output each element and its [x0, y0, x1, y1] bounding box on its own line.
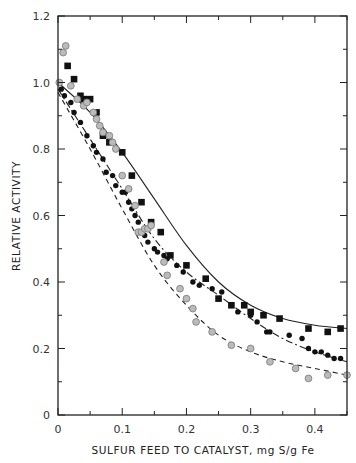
y-tick-label: 0.4: [33, 276, 51, 289]
open-circle-marker: [209, 328, 216, 335]
filled-circle-marker: [103, 170, 108, 175]
x-tick-labels: 00.10.20.30.4: [55, 423, 324, 436]
filled-circle-marker: [68, 100, 73, 105]
x-tick-label: 0.1: [113, 423, 131, 436]
filled-circle-marker: [78, 120, 83, 125]
square-marker: [183, 262, 190, 269]
open-circle-marker: [106, 132, 113, 139]
square-marker: [138, 199, 145, 206]
square-marker: [305, 325, 312, 332]
y-tick-label: 0: [43, 409, 50, 422]
filled-circle-marker: [145, 239, 150, 244]
open-circle-marker: [148, 222, 155, 229]
open-circle-marker: [247, 345, 254, 352]
filled-circle-marker: [209, 286, 214, 291]
open-circle-marker: [164, 272, 171, 279]
y-tick-labels: 00.20.40.60.81.01.2: [33, 10, 51, 422]
filled-circle-marker: [219, 289, 224, 294]
open-circle-marker: [228, 342, 235, 349]
open-circle-marker: [90, 109, 97, 116]
x-axis-label: SULFUR FEED TO CATALYST, mg S/g Fe: [91, 444, 314, 456]
filled-circle-marker: [126, 200, 131, 205]
filled-circle-marker: [267, 329, 272, 334]
filled-circle-marker: [312, 349, 317, 354]
filled-circle-marker: [248, 313, 253, 318]
open-circle-marker: [177, 285, 184, 292]
open-circle-marker: [100, 129, 107, 136]
square-marker: [276, 315, 283, 322]
open-circle-marker: [67, 82, 74, 89]
filled-circle-marker: [235, 309, 240, 314]
x-tick-label: 0.4: [306, 423, 324, 436]
filled-circle-marker: [155, 249, 160, 254]
y-tick-label: 1.0: [33, 77, 51, 90]
open-circle-marker: [193, 319, 200, 326]
open-circle-marker: [119, 172, 126, 179]
square-marker: [157, 229, 164, 236]
square-marker: [202, 275, 209, 282]
data-points: [56, 43, 351, 382]
filled-circle-marker: [229, 303, 234, 308]
filled-squares-fit-curve: [58, 83, 347, 329]
open-circle-marker: [125, 186, 132, 193]
open-circle-marker: [161, 259, 168, 266]
filled-circle-marker: [91, 143, 96, 148]
open-circle-marker: [267, 358, 274, 365]
open-circle-marker: [183, 295, 190, 302]
square-marker: [71, 76, 78, 83]
filled-circle-marker: [325, 352, 330, 357]
plot-frame: [58, 16, 347, 415]
filled-circle-marker: [197, 283, 202, 288]
open-circle-marker: [62, 43, 69, 50]
x-tick-label: 0: [55, 423, 62, 436]
filled-circle-marker: [319, 349, 324, 354]
square-marker: [324, 329, 331, 336]
x-tick-label: 0.2: [178, 423, 196, 436]
y-tick-label: 0.6: [33, 210, 51, 223]
square-marker: [119, 149, 126, 156]
y-axis-label: RELATIVE ACTIVITY: [10, 161, 22, 271]
square-marker: [64, 63, 71, 70]
filled-circle-marker: [59, 86, 64, 91]
filled-circle-marker: [94, 150, 99, 155]
open-circle-marker: [74, 96, 81, 103]
open-circle-marker: [112, 146, 119, 153]
square-marker: [129, 172, 136, 179]
relative-activity-chart: 00.10.20.30.4 00.20.40.60.81.01.2 SULFUR…: [0, 0, 356, 463]
open-circle-marker: [132, 202, 139, 209]
open-circle-marker: [60, 49, 67, 56]
filled-circle-marker: [331, 356, 336, 361]
square-marker: [241, 302, 248, 309]
open-circle-marker: [305, 375, 312, 382]
filled-circle-marker: [287, 333, 292, 338]
open-circle-marker: [84, 99, 91, 106]
filled-circle-marker: [100, 156, 105, 161]
open-circle-marker: [292, 365, 299, 372]
filled-circle-marker: [190, 279, 195, 284]
filled-circle-marker: [174, 263, 179, 268]
filled-circle-marker: [299, 336, 304, 341]
square-marker: [260, 312, 267, 319]
square-marker: [337, 325, 344, 332]
filled-circle-marker: [181, 269, 186, 274]
filled-circle-marker: [136, 219, 141, 224]
axis-ticks: [58, 16, 347, 415]
square-marker: [215, 295, 222, 302]
filled-circle-marker: [132, 213, 137, 218]
open-circle-marker: [324, 372, 331, 379]
open-circle-marker: [189, 305, 196, 312]
x-tick-label: 0.3: [242, 423, 260, 436]
open-circle-marker: [96, 122, 103, 129]
filled-circle-marker: [254, 319, 259, 324]
filled-circle-marker: [306, 346, 311, 351]
y-tick-label: 0.2: [33, 343, 51, 356]
filled-circle-marker: [84, 133, 89, 138]
y-tick-label: 1.2: [33, 10, 51, 23]
filled-circle-marker: [71, 110, 76, 115]
open-circle-marker: [109, 139, 116, 146]
filled-circle-marker: [110, 173, 115, 178]
filled-circle-marker: [113, 183, 118, 188]
y-tick-label: 0.8: [33, 143, 51, 156]
filled-circle-marker: [62, 93, 67, 98]
filled-circle-marker: [338, 356, 343, 361]
